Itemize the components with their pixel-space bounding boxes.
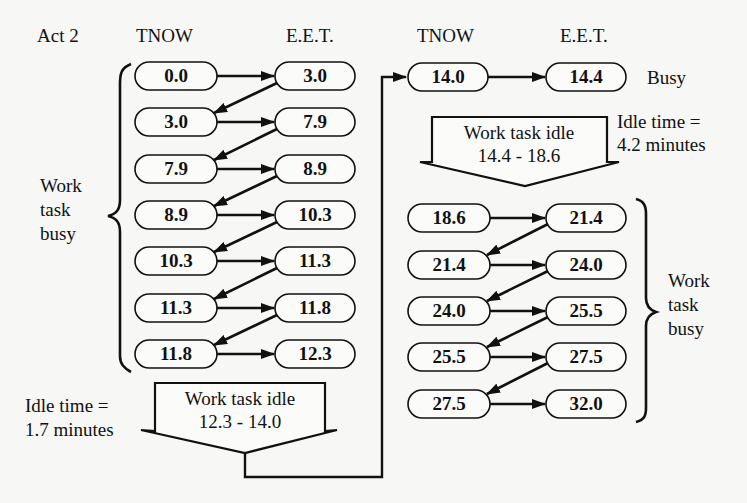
left-brace-label-line1: Work bbox=[40, 175, 82, 196]
left-block: Work task busy 0.0 3.0 3.0 7.9 7.9 8.9 8… bbox=[25, 62, 355, 453]
eet-value: 27.5 bbox=[569, 346, 602, 367]
right-idle-note-line1: Idle time = bbox=[617, 111, 701, 132]
eet-value: 3.0 bbox=[303, 65, 327, 86]
eet-value: 24.0 bbox=[569, 254, 602, 275]
arrow-diagonal-icon bbox=[214, 268, 277, 299]
arrow-diagonal-icon bbox=[214, 83, 277, 113]
eet-value: 8.9 bbox=[303, 158, 327, 179]
right-brace-label-line3: busy bbox=[668, 318, 704, 339]
tnow-value: 18.6 bbox=[432, 207, 465, 228]
right-eet-header: E.E.T. bbox=[560, 25, 608, 46]
eet-value: 7.9 bbox=[303, 111, 327, 132]
right-idle-title: Work task idle bbox=[464, 122, 574, 143]
left-idle-note-line1: Idle time = bbox=[25, 395, 109, 416]
tnow-value: 0.0 bbox=[164, 65, 188, 86]
eet-value: 10.3 bbox=[298, 204, 331, 225]
left-idle-range: 12.3 - 14.0 bbox=[199, 411, 281, 432]
tnow-value: 27.5 bbox=[432, 393, 465, 414]
tnow-value: 8.9 bbox=[164, 204, 188, 225]
busy-status-label: Busy bbox=[647, 67, 687, 88]
eet-value: 11.8 bbox=[299, 297, 331, 318]
eet-value: 14.4 bbox=[569, 66, 603, 87]
right-block: 14.0 14.4 Busy Work task idle 14.4 - 18.… bbox=[408, 63, 710, 422]
tnow-value: 21.4 bbox=[432, 254, 466, 275]
eet-value: 25.5 bbox=[569, 300, 602, 321]
arrow-diagonal-icon bbox=[214, 315, 277, 345]
left-idle-title: Work task idle bbox=[185, 388, 295, 409]
right-top-row: 14.0 14.4 Busy bbox=[408, 63, 687, 91]
eet-value: 32.0 bbox=[569, 393, 602, 414]
arrow-diagonal-icon bbox=[214, 222, 277, 252]
right-brace-label-line1: Work bbox=[668, 270, 710, 291]
arrow-diagonal-icon bbox=[487, 317, 548, 347]
left-tnow-header: TNOW bbox=[136, 25, 193, 46]
eet-value: 11.3 bbox=[299, 250, 331, 271]
tnow-value: 14.0 bbox=[431, 66, 464, 87]
left-brace bbox=[108, 64, 131, 372]
right-idle-note-line2: 4.2 minutes bbox=[617, 134, 706, 155]
left-brace-label-line2: task bbox=[40, 199, 71, 220]
work-task-timeline-diagram: Act 2 TNOW E.E.T. TNOW E.E.T. Work task … bbox=[0, 0, 747, 503]
eet-value: 12.3 bbox=[298, 343, 331, 364]
arrow-diagonal-icon bbox=[487, 224, 548, 255]
arrow-diagonal-icon bbox=[487, 363, 548, 394]
activity-label: Act 2 bbox=[37, 25, 79, 46]
tnow-value: 10.3 bbox=[159, 250, 192, 271]
tnow-value: 11.8 bbox=[160, 343, 192, 364]
tnow-value: 24.0 bbox=[432, 300, 465, 321]
tnow-value: 25.5 bbox=[432, 346, 465, 367]
tnow-value: 7.9 bbox=[164, 158, 188, 179]
right-forward-arrows bbox=[490, 218, 545, 404]
left-forward-arrows bbox=[217, 76, 274, 354]
arrow-diagonal-icon bbox=[487, 271, 548, 301]
eet-value: 21.4 bbox=[569, 207, 603, 228]
right-tnow-header: TNOW bbox=[417, 25, 474, 46]
left-brace-label-line3: busy bbox=[40, 223, 76, 244]
right-idle-range: 14.4 - 18.6 bbox=[478, 145, 560, 166]
arrow-diagonal-icon bbox=[214, 176, 277, 206]
left-idle-note-line2: 1.7 minutes bbox=[25, 419, 114, 440]
right-brace bbox=[636, 199, 656, 422]
right-diagonal-arrows bbox=[487, 224, 548, 394]
tnow-value: 11.3 bbox=[160, 297, 192, 318]
right-brace-label-line2: task bbox=[668, 294, 699, 315]
left-eet-header: E.E.T. bbox=[286, 25, 334, 46]
arrow-diagonal-icon bbox=[214, 129, 277, 160]
tnow-value: 3.0 bbox=[164, 111, 188, 132]
